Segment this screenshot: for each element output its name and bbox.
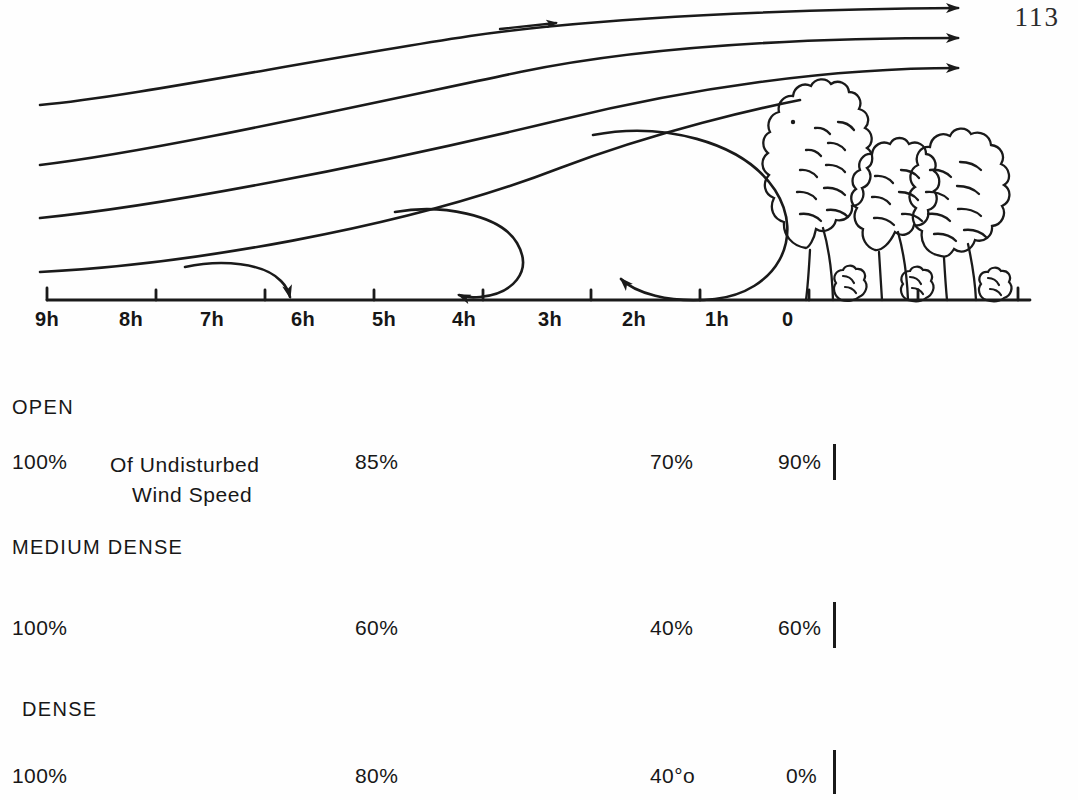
- shrub-left-icon: [834, 266, 867, 301]
- undisturbed-note-line-2: Wind Speed: [132, 480, 252, 510]
- medium-dense-value-2h: 40%: [650, 616, 693, 640]
- axis-tick-4h: 4h: [452, 308, 476, 331]
- medium-dense-value-1h: 60%: [778, 616, 821, 640]
- streamline-2-icon: [40, 38, 958, 165]
- axis-tick-7h: 7h: [200, 308, 224, 331]
- tree-right-icon: [909, 129, 1009, 300]
- category-heading-dense: DENSE: [22, 698, 97, 721]
- streamline-4-icon: [40, 100, 800, 272]
- open-value-2h: 70%: [650, 450, 693, 474]
- axis-tick-0: 0: [782, 308, 794, 331]
- dense-value-2h: 40°o: [650, 764, 695, 788]
- medium-dense-row-end-bar: [833, 602, 836, 648]
- lee-eddy-small-icon: [185, 263, 290, 297]
- axis-tick-3h: 3h: [538, 308, 562, 331]
- axis-tick-9h: 9h: [35, 308, 59, 331]
- windbreak-diagram: [0, 0, 1078, 350]
- page-canvas: 113: [0, 0, 1078, 800]
- lee-eddy-large-icon: [593, 131, 787, 300]
- medium-dense-value-9h: 100%: [12, 616, 67, 640]
- dense-value-9h: 100%: [12, 764, 67, 788]
- axis-tick-2h: 2h: [622, 308, 646, 331]
- dense-row-end-bar: [833, 750, 836, 794]
- lee-eddy-medium-icon: [395, 209, 523, 297]
- streamline-1-icon: [40, 8, 958, 105]
- open-value-5h: 85%: [355, 450, 398, 474]
- medium-dense-value-5h: 60%: [355, 616, 398, 640]
- open-value-9h: 100%: [12, 450, 67, 474]
- axis-tick-6h: 6h: [291, 308, 315, 331]
- open-row-end-bar: [833, 444, 836, 480]
- undisturbed-note-line-1: Of Undisturbed: [110, 450, 260, 480]
- shrub-right-icon: [979, 268, 1012, 302]
- category-heading-medium-dense: MEDIUM DENSE: [12, 536, 183, 559]
- dense-value-5h: 80%: [355, 764, 398, 788]
- dense-value-1h: 0%: [786, 764, 817, 788]
- category-heading-open: OPEN: [12, 396, 74, 419]
- axis-tick-8h: 8h: [119, 308, 143, 331]
- axis-tick-label-row: 9h 8h 7h 6h 5h 4h 3h 2h 1h 0: [0, 308, 1078, 342]
- axis-tick-5h: 5h: [372, 308, 396, 331]
- axis-tick-1h: 1h: [705, 308, 729, 331]
- open-value-1h: 90%: [778, 450, 821, 474]
